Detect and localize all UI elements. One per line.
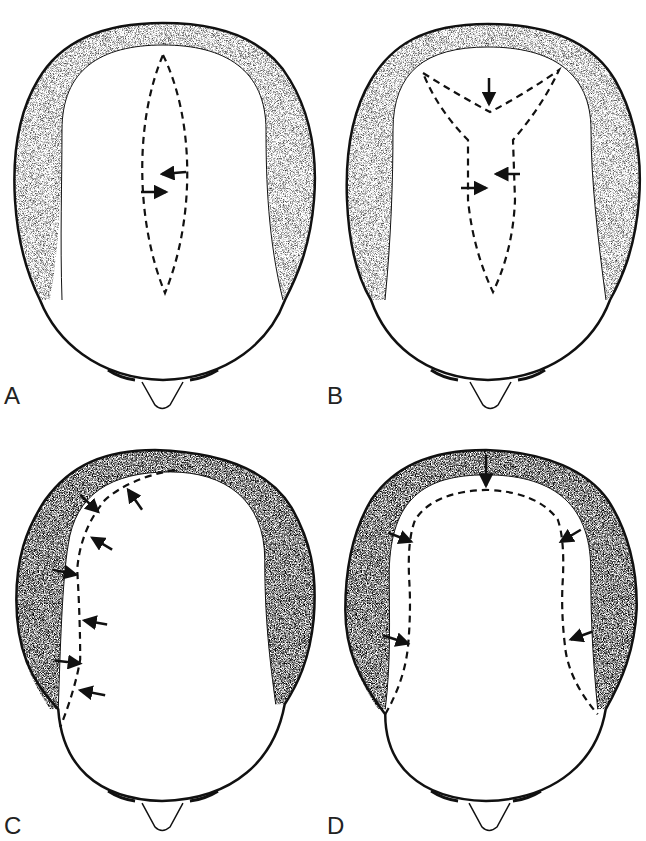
- nose-icon: [470, 382, 511, 409]
- panel-label: B: [327, 384, 343, 408]
- arrow-icon: [92, 538, 112, 550]
- arrow-icon: [561, 530, 581, 542]
- arrow-icon: [80, 690, 105, 695]
- panel-d: D: [323, 420, 646, 840]
- arrow-icon: [571, 631, 593, 639]
- excision-outline: [423, 70, 559, 292]
- nose-icon: [469, 803, 510, 830]
- head-diagram-a: [0, 0, 323, 420]
- arrow-icon: [84, 621, 107, 625]
- panel-label: D: [327, 814, 344, 838]
- nose-icon: [142, 803, 183, 830]
- head-diagram-c: [0, 420, 323, 840]
- excision-outline: [385, 490, 597, 714]
- arrow-icon: [128, 490, 142, 510]
- panel-b: B: [323, 0, 646, 420]
- panel-label: C: [4, 814, 21, 838]
- head-diagram-b: [323, 0, 646, 420]
- nose-icon: [142, 382, 183, 409]
- panel-label: A: [4, 384, 20, 408]
- head-diagram-d: [323, 420, 646, 840]
- arrow-icon: [162, 172, 186, 174]
- panel-a: A: [0, 0, 323, 420]
- panel-c: C: [0, 420, 323, 840]
